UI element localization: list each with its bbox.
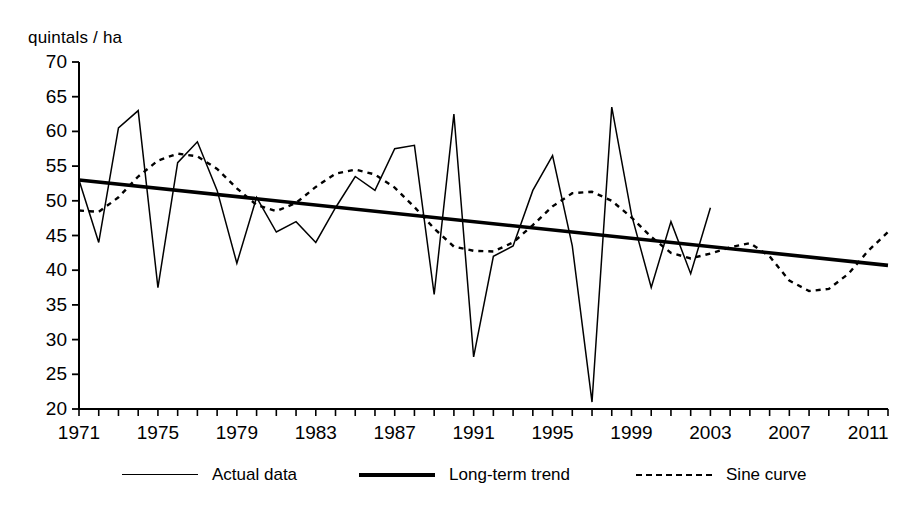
x-axis-ticks xyxy=(79,409,888,416)
svg-text:30: 30 xyxy=(46,329,67,350)
legend-label-sine-curve: Sine curve xyxy=(726,465,806,485)
thin-line-icon xyxy=(122,469,198,481)
y-axis-tick-labels: 2025303540455055606570 xyxy=(46,51,67,419)
legend-item-long-term-trend: Long-term trend xyxy=(359,465,570,485)
chart-legend: Actual data Long-term trend Sine curve xyxy=(0,455,912,495)
svg-text:50: 50 xyxy=(46,190,67,211)
svg-text:60: 60 xyxy=(46,120,67,141)
svg-text:1987: 1987 xyxy=(374,422,416,443)
svg-text:40: 40 xyxy=(46,259,67,280)
legend-label-long-term-trend: Long-term trend xyxy=(449,465,570,485)
svg-text:55: 55 xyxy=(46,155,67,176)
legend-label-actual-data: Actual data xyxy=(212,465,297,485)
svg-text:1999: 1999 xyxy=(610,422,652,443)
svg-text:20: 20 xyxy=(46,398,67,419)
svg-text:2003: 2003 xyxy=(689,422,731,443)
chart-figure: quintals / ha 2025303540455055606570 197… xyxy=(0,0,912,509)
legend-item-actual-data: Actual data xyxy=(122,465,297,485)
svg-text:25: 25 xyxy=(46,363,67,384)
svg-text:2011: 2011 xyxy=(848,422,889,443)
dashed-line-icon xyxy=(636,469,712,481)
y-axis-ticks xyxy=(72,62,79,409)
svg-text:1979: 1979 xyxy=(216,422,258,443)
svg-text:1975: 1975 xyxy=(137,422,179,443)
svg-text:1991: 1991 xyxy=(452,422,494,443)
thick-line-icon xyxy=(359,469,435,481)
x-axis-tick-labels: 1971197519791983198719911995199920032007… xyxy=(58,422,889,443)
svg-text:45: 45 xyxy=(46,225,67,246)
svg-text:2007: 2007 xyxy=(768,422,810,443)
legend-item-sine-curve: Sine curve xyxy=(636,465,806,485)
series-long-term-trend xyxy=(79,180,888,265)
svg-text:1971: 1971 xyxy=(58,422,100,443)
svg-text:1995: 1995 xyxy=(531,422,573,443)
series-actual-data xyxy=(79,107,710,402)
chart-plot-area: 2025303540455055606570 19711975197919831… xyxy=(0,0,912,509)
svg-text:70: 70 xyxy=(46,51,67,72)
svg-text:1983: 1983 xyxy=(295,422,337,443)
svg-text:35: 35 xyxy=(46,294,67,315)
svg-text:65: 65 xyxy=(46,86,67,107)
